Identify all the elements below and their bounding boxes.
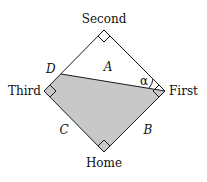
label-angle-alpha: α — [140, 74, 148, 88]
label-region-a: A — [103, 60, 113, 74]
label-first: First — [169, 84, 198, 98]
right-angle-second — [98, 36, 110, 42]
label-home: Home — [86, 156, 122, 170]
angle-alpha-arc — [149, 79, 153, 88]
label-second: Second — [82, 12, 127, 26]
baseball-diamond-diagram: Second First Home Third D A B C α — [0, 0, 207, 182]
label-side-b: B — [143, 123, 153, 137]
label-side-c: C — [59, 123, 68, 137]
label-third: Third — [8, 84, 41, 98]
label-point-d: D — [45, 62, 56, 76]
